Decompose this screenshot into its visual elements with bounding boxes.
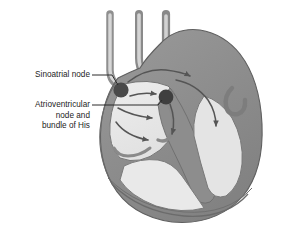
label-atrioventricular-node-line-1: Atrioventricular	[6, 100, 90, 111]
label-sinoatrial-node-line-1: Sinoatrial node	[6, 70, 90, 81]
heart-conduction-diagram: Sinoatrial node Atrioventricular node an…	[0, 0, 288, 228]
label-atrioventricular-node-line-2: node and	[6, 111, 90, 122]
label-atrioventricular-node-line-3: bundle of His	[6, 121, 90, 132]
heart-body-group	[100, 30, 262, 223]
label-atrioventricular-node: Atrioventricular node and bundle of His	[6, 100, 90, 132]
superior-vena-cava-lumen	[110, 15, 119, 84]
label-sinoatrial-node: Sinoatrial node	[6, 70, 90, 81]
sinoatrial-node-marker	[113, 82, 128, 97]
